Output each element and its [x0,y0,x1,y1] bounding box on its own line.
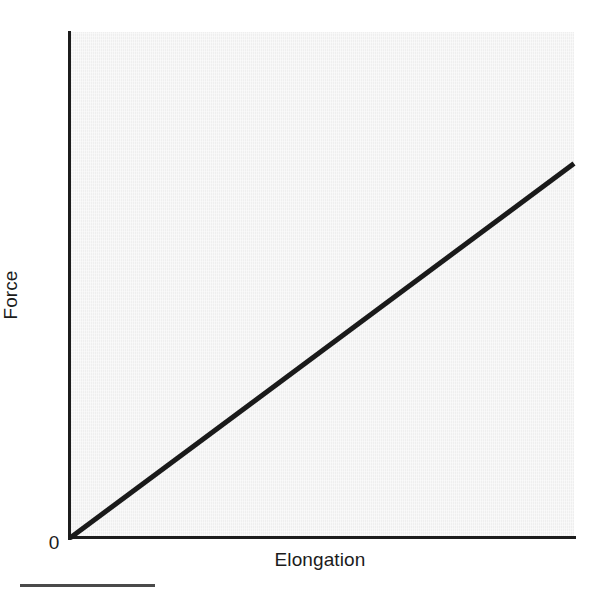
y-axis-label: Force [0,245,22,345]
caption-divider [20,584,155,587]
plot-area [70,32,574,538]
force-elongation-figure: Force Elongation 0 [0,0,610,594]
origin-label: 0 [44,532,64,554]
y-axis-line [68,31,71,540]
x-axis-line [68,536,576,539]
x-axis-label: Elongation [170,549,470,571]
